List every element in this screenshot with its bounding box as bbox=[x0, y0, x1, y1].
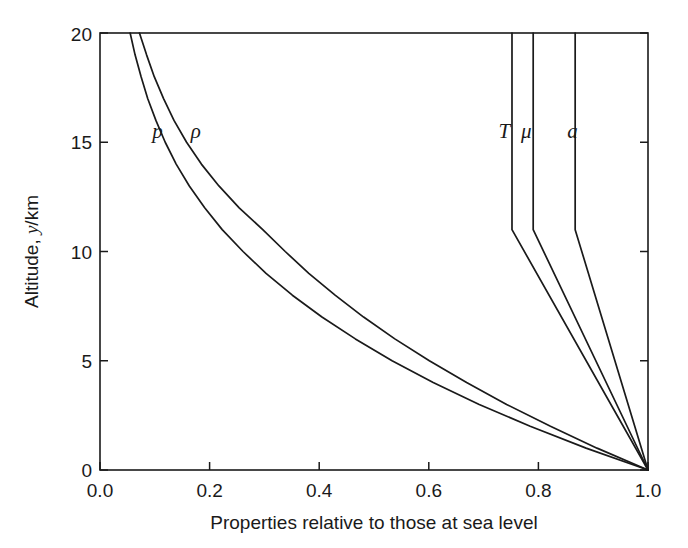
x-tick-label-2: 0.4 bbox=[306, 480, 333, 501]
curve-label-mu: μ bbox=[520, 119, 532, 143]
curve-label-T: T bbox=[499, 119, 512, 143]
y-tick-label-0: 0 bbox=[81, 460, 92, 481]
curve-label-rho: ρ bbox=[190, 119, 201, 143]
y-axis-title-suffix: /km bbox=[21, 195, 42, 226]
y-axis-title-prefix: Altitude, bbox=[21, 234, 42, 308]
y-axis-title-variable: y bbox=[21, 225, 42, 236]
curve-label-p: p bbox=[150, 119, 163, 143]
y-axis-title: Altitude, y/km bbox=[21, 195, 42, 308]
x-tick-label-5: 1.0 bbox=[635, 480, 661, 501]
y-tick-label-15: 15 bbox=[71, 132, 92, 153]
chart-background bbox=[0, 0, 688, 548]
svg-text:Altitude, y/km: Altitude, y/km bbox=[21, 195, 42, 308]
x-tick-label-1: 0.2 bbox=[196, 480, 222, 501]
y-tick-label-10: 10 bbox=[71, 242, 92, 263]
x-tick-label-4: 0.8 bbox=[525, 480, 551, 501]
x-axis-title: Properties relative to those at sea leve… bbox=[210, 512, 537, 533]
y-tick-label-20: 20 bbox=[71, 24, 92, 45]
curve-label-a: a bbox=[567, 119, 578, 143]
y-tick-label-5: 5 bbox=[81, 351, 92, 372]
x-tick-label-3: 0.6 bbox=[416, 480, 442, 501]
standard-atmosphere-chart: 0 5 10 15 20 0.0 0.2 0.4 0.6 0.8 1.0 Pro… bbox=[0, 0, 688, 548]
x-tick-label-0: 0.0 bbox=[87, 480, 113, 501]
